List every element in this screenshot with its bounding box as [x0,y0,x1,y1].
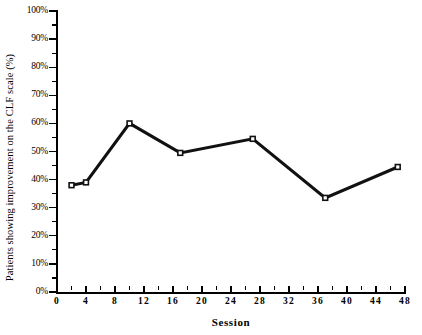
x-tick-minor [129,286,130,290]
x-tick [85,286,86,293]
y-tick-minor [52,221,56,222]
y-tick-minor [52,53,56,54]
y-tick-minor [52,24,56,25]
x-tick-label: 48 [385,296,422,306]
y-tick [49,95,56,96]
data-point-marker [127,121,132,126]
y-tick-minor [52,137,56,138]
y-tick-label: 10% [8,258,48,268]
y-tick-minor [52,249,56,250]
y-tick-minor [52,193,56,194]
x-axis-title: Session [57,316,405,328]
y-tick-label: 0% [8,286,48,296]
x-tick [143,286,144,293]
data-point-marker [323,195,328,200]
y-tick [49,263,56,264]
y-tick [49,38,56,39]
y-tick-minor [52,81,56,82]
y-tick-minor [52,277,56,278]
y-tick [49,179,56,180]
x-tick [346,286,347,293]
data-point-marker [178,151,183,156]
y-tick [49,10,56,11]
y-tick-label: 90% [8,33,48,43]
data-point-marker [395,165,400,170]
y-tick [49,235,56,236]
y-tick-label: 50% [8,146,48,156]
chart-container: Patients showing improvement on the CLF … [0,0,422,335]
data-point-marker [250,136,255,141]
y-tick [49,151,56,152]
y-tick [49,67,56,68]
y-tick-label: 70% [8,89,48,99]
x-tick-minor [216,286,217,290]
x-tick-minor [274,286,275,290]
x-tick-minor [361,286,362,290]
y-tick [49,123,56,124]
x-tick-minor [187,286,188,290]
y-tick-label: 20% [8,230,48,240]
y-tick [49,291,56,292]
data-line [72,123,398,197]
y-tick-label: 30% [8,202,48,212]
x-tick-minor [71,286,72,290]
x-tick [288,286,289,293]
x-tick [56,286,57,293]
y-tick-label: 40% [8,174,48,184]
y-tick-label: 80% [8,61,48,71]
x-tick-minor [332,286,333,290]
y-axis-title: Patients showing improvement on the CLF … [0,0,18,335]
x-tick [375,286,376,293]
data-point-marker [69,183,74,188]
x-tick-minor [100,286,101,290]
x-tick-minor [158,286,159,290]
y-tick-minor [52,109,56,110]
x-tick [230,286,231,293]
data-series-layer [0,0,422,335]
y-axis-line [56,10,58,293]
x-tick-minor [303,286,304,290]
x-tick [404,286,405,293]
x-tick-minor [245,286,246,290]
data-markers [69,121,400,200]
x-tick-minor [390,286,391,290]
x-tick [114,286,115,293]
data-point-marker [84,180,89,185]
y-tick-label: 60% [8,117,48,127]
y-tick [49,207,56,208]
x-tick [317,286,318,293]
y-tick-minor [52,165,56,166]
y-tick-label: 100% [8,5,48,15]
x-tick [259,286,260,293]
x-tick [172,286,173,293]
x-tick [201,286,202,293]
